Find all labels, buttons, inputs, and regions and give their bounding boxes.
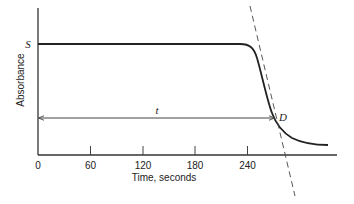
t-label: t [155,104,159,116]
tangent-dashed-line [250,6,295,196]
x-ticks [91,146,248,155]
d-label: D [278,111,287,123]
x-tick-label-0: 0 [35,160,41,171]
absorbance-chart: 0 60 120 180 240 Time, seconds Absorbanc… [0,0,354,204]
x-tick-label-180: 180 [187,160,204,171]
x-axis-title: Time, seconds [132,172,197,183]
s-label: S [25,38,31,50]
x-tick-label-240: 240 [239,160,256,171]
x-tick-label-60: 60 [85,160,97,171]
absorbance-curve [38,44,328,145]
y-axis-title: Absorbance [15,53,26,107]
x-tick-label-120: 120 [135,160,152,171]
